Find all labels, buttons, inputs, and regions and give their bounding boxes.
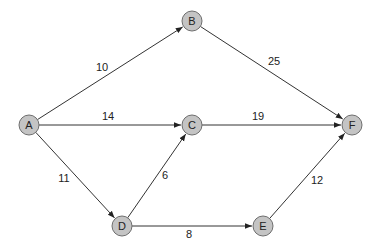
edge-weight-label: 25 — [268, 55, 280, 67]
weighted-directed-graph: 10141125196812 ABCDEF — [0, 0, 383, 252]
edge-weight-label: 11 — [58, 172, 69, 184]
node-label: A — [25, 119, 33, 131]
edge-labels-layer: 10141125196812 — [58, 55, 323, 240]
node-f: F — [342, 115, 362, 135]
edge-b-f — [200, 26, 342, 119]
edge-weight-label: 6 — [162, 169, 168, 181]
edge-weight-label: 19 — [252, 110, 264, 122]
edge-weight-label: 10 — [96, 61, 108, 73]
edge-a-b — [37, 27, 182, 120]
node-e: E — [253, 216, 273, 236]
node-label: E — [259, 220, 266, 232]
edge-weight-label: 12 — [311, 174, 323, 186]
node-label: C — [188, 119, 196, 131]
edge-weight-label: 8 — [186, 228, 192, 240]
nodes-layer: ABCDEF — [19, 11, 362, 236]
node-d: D — [112, 216, 132, 236]
node-b: B — [182, 11, 202, 31]
edge-a-d — [36, 132, 115, 218]
node-label: B — [188, 15, 195, 27]
edge-d-c — [128, 134, 186, 218]
edge-weight-label: 14 — [102, 110, 114, 122]
edge-e-f — [270, 133, 345, 218]
node-c: C — [182, 115, 202, 135]
node-a: A — [19, 115, 39, 135]
node-label: F — [349, 119, 356, 131]
node-label: D — [118, 220, 126, 232]
